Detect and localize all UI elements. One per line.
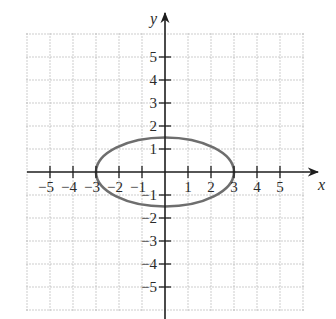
y-tick-label: −2 — [141, 210, 157, 226]
y-tick-label: −5 — [141, 279, 157, 295]
y-axis-label: y — [148, 10, 158, 28]
coordinate-plane: −5−4−3−2−112345−5−4−3−2−112345 x y — [0, 0, 336, 319]
y-tick-label: 1 — [150, 141, 158, 157]
y-tick-label: −3 — [141, 233, 157, 249]
y-tick-label: 3 — [150, 95, 158, 111]
x-tick-label: 3 — [230, 179, 238, 195]
y-tick-label: −1 — [141, 187, 157, 203]
x-tick-label: −2 — [107, 179, 123, 195]
y-tick-label: 5 — [150, 49, 158, 65]
x-tick-label: −3 — [84, 179, 100, 195]
x-tick-label: −5 — [38, 179, 54, 195]
x-tick-label: 5 — [276, 179, 284, 195]
axes — [27, 13, 318, 319]
x-tick-label: 1 — [184, 179, 192, 195]
x-tick-label: 4 — [253, 179, 261, 195]
x-axis-label: x — [317, 176, 325, 193]
x-tick-label: 2 — [207, 179, 215, 195]
y-tick-label: 2 — [150, 118, 158, 134]
x-tick-label: −4 — [61, 179, 77, 195]
y-tick-label: 4 — [150, 72, 158, 88]
graph-figure: −5−4−3−2−112345−5−4−3−2−112345 x y — [0, 0, 336, 319]
y-tick-label: −4 — [141, 256, 157, 272]
